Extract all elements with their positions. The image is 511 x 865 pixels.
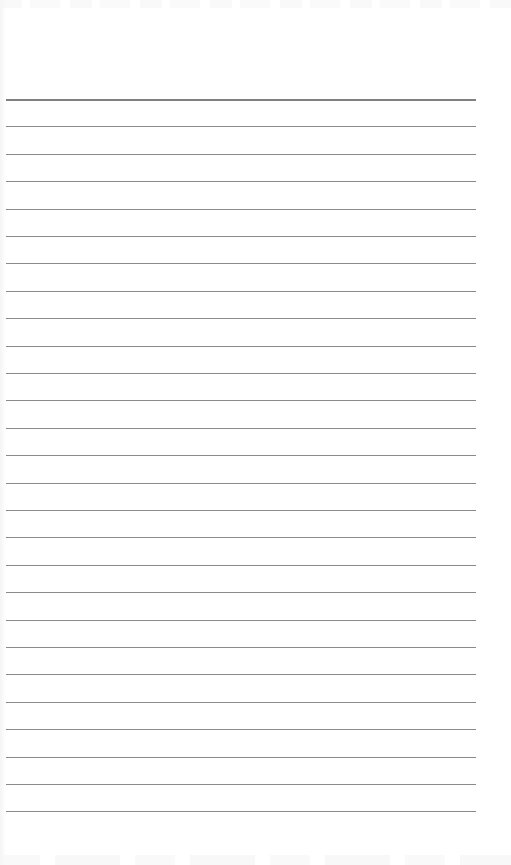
rule-line [6, 620, 476, 621]
show-through-bottom [0, 855, 511, 865]
rule-line [6, 483, 476, 484]
rule-line [6, 647, 476, 648]
rule-line [6, 236, 476, 237]
rule-line [6, 537, 476, 538]
rule-line [6, 565, 476, 566]
rule-line [6, 674, 476, 675]
header-rule-line [6, 99, 476, 101]
lined-paper-page [0, 0, 511, 865]
rule-line [6, 729, 476, 730]
rule-line [6, 291, 476, 292]
rule-line [6, 373, 476, 374]
rule-line [6, 811, 476, 812]
rule-line [6, 702, 476, 703]
rule-line [6, 181, 476, 182]
rule-line [6, 757, 476, 758]
show-through-top [0, 0, 511, 8]
rule-line [6, 592, 476, 593]
rule-line [6, 263, 476, 264]
rule-line [6, 126, 476, 127]
rule-line [6, 510, 476, 511]
rule-line [6, 455, 476, 456]
rule-line [6, 400, 476, 401]
rule-line [6, 346, 476, 347]
rule-line [6, 784, 476, 785]
rule-line [6, 428, 476, 429]
rule-line [6, 318, 476, 319]
rule-line [6, 154, 476, 155]
rule-line [6, 209, 476, 210]
